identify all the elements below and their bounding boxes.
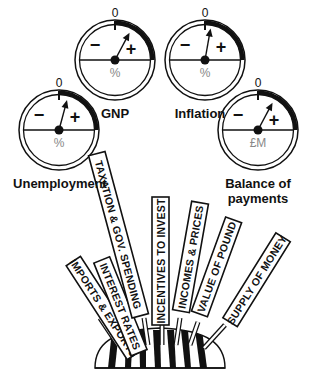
unit-label: %	[54, 136, 65, 150]
gauge-label-unemployment: Unemployment	[5, 176, 115, 191]
lever-incentives-to-invest[interactable]: INCENTIVES TO INVEST	[152, 197, 169, 345]
gauge-gnp: − + % 0	[75, 6, 155, 100]
unit-label: %	[200, 66, 211, 80]
plus-sign: +	[126, 39, 137, 59]
plus-sign: +	[70, 107, 81, 127]
needle-pivot	[254, 126, 263, 135]
gauge-inflation: − + % 0	[165, 6, 245, 100]
economy-control-diagram: − + % 0 − + % 0 − + % 0	[0, 0, 310, 381]
zero-label: 0	[255, 76, 262, 90]
needle-pivot	[111, 56, 120, 65]
zero-label: 0	[56, 76, 63, 90]
lever-label: INCENTIVES TO INVEST	[155, 198, 167, 324]
lever-label: SUPPLY OF MONEY	[224, 233, 289, 327]
needle-pivot	[201, 56, 210, 65]
lever-incomes-prices[interactable]: INCOMES & PRICES	[173, 201, 209, 345]
gauge-label-gnp: GNP	[95, 106, 135, 121]
minus-sign: −	[90, 35, 101, 55]
zero-label: 0	[112, 6, 119, 20]
balance-label-line1: Balance of	[218, 176, 298, 191]
plus-sign: +	[269, 110, 280, 130]
gauge-unemployment: − + % 0	[19, 76, 99, 170]
plus-sign: +	[216, 37, 227, 57]
unit-label: %	[110, 66, 121, 80]
unit-label: £M	[250, 136, 267, 150]
needle-pivot	[55, 126, 64, 135]
minus-sign: −	[180, 35, 191, 55]
gauge-label-inflation: Inflation	[165, 106, 235, 121]
gauge-label-balance-of-payments: Balance of payments	[218, 176, 298, 206]
minus-sign: −	[34, 105, 45, 125]
zero-label: 0	[202, 6, 209, 20]
balance-label-line2: payments	[218, 191, 298, 206]
